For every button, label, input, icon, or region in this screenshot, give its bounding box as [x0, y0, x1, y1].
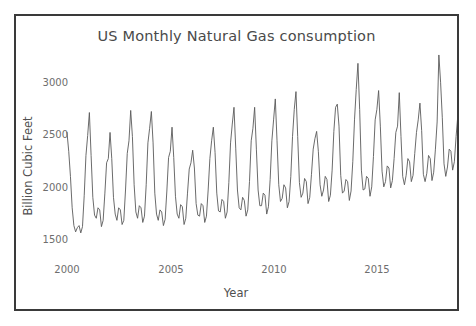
chart-figure-frame: US Monthly Natural Gas consumption 3000 …	[14, 14, 459, 311]
y-tick-label-1500: 1500	[43, 234, 68, 245]
x-axis-title: Year	[223, 286, 249, 300]
cropped-header-text	[0, 0, 476, 8]
y-tick-label-2000: 2000	[43, 182, 68, 193]
screenshot-page: US Monthly Natural Gas consumption 3000 …	[0, 0, 476, 326]
y-axis-tick-labels: 3000 2500 2000 1500	[43, 77, 68, 245]
x-tick-label-2005: 2005	[158, 264, 183, 275]
chart-plot-area: 3000 2500 2000 1500 2000 2005 2010 2015 …	[16, 16, 457, 309]
y-axis-title: Billion Cubic Feet	[21, 116, 35, 216]
x-tick-label-2015: 2015	[364, 264, 389, 275]
cropped-header-text-label	[0, 0, 3, 4]
x-axis-tick-labels: 2000 2005 2010 2015	[54, 264, 389, 275]
gas-consumption-line	[67, 55, 457, 233]
x-tick-label-2010: 2010	[261, 264, 286, 275]
y-tick-label-2500: 2500	[43, 129, 68, 140]
x-tick-label-2000: 2000	[54, 264, 79, 275]
y-tick-label-3000: 3000	[43, 77, 68, 88]
